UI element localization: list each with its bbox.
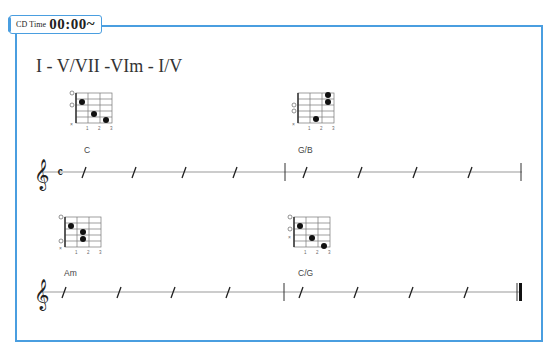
svg-text:2: 2 <box>316 250 319 255</box>
svg-text:1: 1 <box>75 250 78 255</box>
svg-text:3: 3 <box>332 126 335 131</box>
svg-text:2: 2 <box>87 250 90 255</box>
staff-system-1: 𝄞 𝄴 <box>20 150 530 200</box>
treble-clef-icon: 𝄞 <box>34 279 49 311</box>
svg-text:×: × <box>59 245 62 251</box>
progression-title: I - V/VII -VIm - I/V <box>36 56 182 77</box>
treble-clef-icon: 𝄞 <box>34 159 49 191</box>
chord-diagram-c-over-g: × 123 <box>286 214 346 259</box>
svg-text:1: 1 <box>86 126 89 131</box>
badge-time: 00:00~ <box>49 16 95 33</box>
common-time-icon: 𝄴 <box>57 164 63 180</box>
svg-text:2: 2 <box>320 126 323 131</box>
svg-text:1: 1 <box>304 250 307 255</box>
svg-text:×: × <box>288 234 291 240</box>
staff-system-2: 𝄞 <box>20 270 530 320</box>
badge-label: CD Time <box>16 20 46 29</box>
svg-text:3: 3 <box>328 250 331 255</box>
cd-time-badge: CD Time 00:00~ <box>9 15 102 34</box>
svg-text:×: × <box>70 121 73 127</box>
chord-diagram-c: × 123 <box>68 90 128 135</box>
chord-diagram-am: × 123 <box>57 214 117 259</box>
svg-text:×: × <box>292 121 295 127</box>
svg-text:3: 3 <box>99 250 102 255</box>
svg-text:2: 2 <box>98 126 101 131</box>
svg-text:3: 3 <box>110 126 113 131</box>
chord-diagram-g-over-b: × 123 <box>290 90 350 135</box>
badge-accent <box>8 17 11 32</box>
svg-text:1: 1 <box>308 126 311 131</box>
